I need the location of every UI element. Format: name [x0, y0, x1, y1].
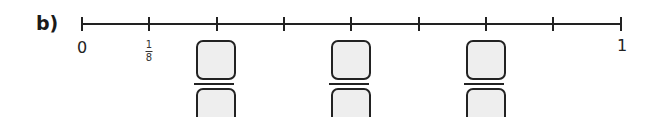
fraction-numerator: 1	[146, 40, 152, 50]
tick-8	[620, 17, 622, 31]
tick-label-one: 1	[617, 36, 627, 55]
fraction-bar	[464, 83, 504, 85]
question-label: b)	[36, 12, 58, 34]
tick-7	[552, 17, 554, 31]
answer-fraction-1	[196, 40, 236, 117]
fraction-bar	[194, 83, 234, 85]
number-line-axis	[82, 23, 622, 25]
numerator-input-box[interactable]	[196, 40, 236, 80]
tick-5	[418, 17, 420, 31]
fraction-bar	[329, 83, 369, 85]
denominator-input-box[interactable]	[196, 88, 236, 117]
tick-1	[148, 17, 150, 31]
denominator-input-box[interactable]	[331, 88, 371, 117]
numerator-input-box[interactable]	[466, 40, 506, 80]
denominator-input-box[interactable]	[466, 88, 506, 117]
tick-6	[485, 17, 487, 31]
answer-fraction-2	[331, 40, 371, 117]
tick-label-zero: 0	[77, 38, 87, 57]
tick-4	[350, 17, 352, 31]
tick-2	[216, 17, 218, 31]
tick-0	[81, 17, 83, 31]
tick-3	[283, 17, 285, 31]
tick-label-one-eighth: 1 8	[146, 40, 153, 63]
fraction-denominator: 8	[146, 53, 152, 63]
answer-fraction-3	[466, 40, 506, 117]
numerator-input-box[interactable]	[331, 40, 371, 80]
